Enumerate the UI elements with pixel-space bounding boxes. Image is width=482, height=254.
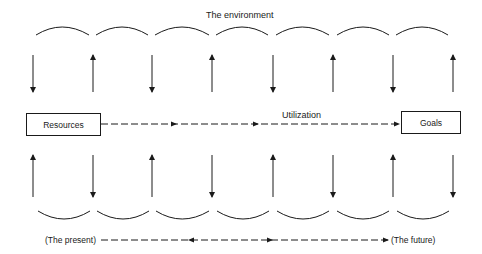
utilization-dashed-line <box>101 122 400 127</box>
utilization-label: Utilization <box>282 110 321 120</box>
goals-box: Goals <box>401 111 461 134</box>
top-arrows <box>33 55 453 92</box>
bottom-arrows <box>33 155 453 197</box>
resources-label: Resources <box>43 120 84 130</box>
resources-box: Resources <box>26 113 101 136</box>
goals-label: Goals <box>420 118 442 128</box>
timeline-future-label: (The future) <box>391 235 435 245</box>
timeline-dashed-line <box>101 238 389 243</box>
bottom-environment-arcs <box>38 211 449 219</box>
environment-label: The environment <box>206 10 274 20</box>
top-environment-arcs <box>36 27 448 35</box>
timeline-present-label: (The present) <box>45 235 96 245</box>
